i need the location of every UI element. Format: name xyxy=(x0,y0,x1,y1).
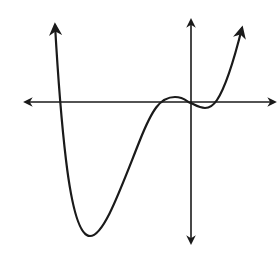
polynomial-graph xyxy=(0,0,279,255)
function-curve xyxy=(55,25,242,236)
